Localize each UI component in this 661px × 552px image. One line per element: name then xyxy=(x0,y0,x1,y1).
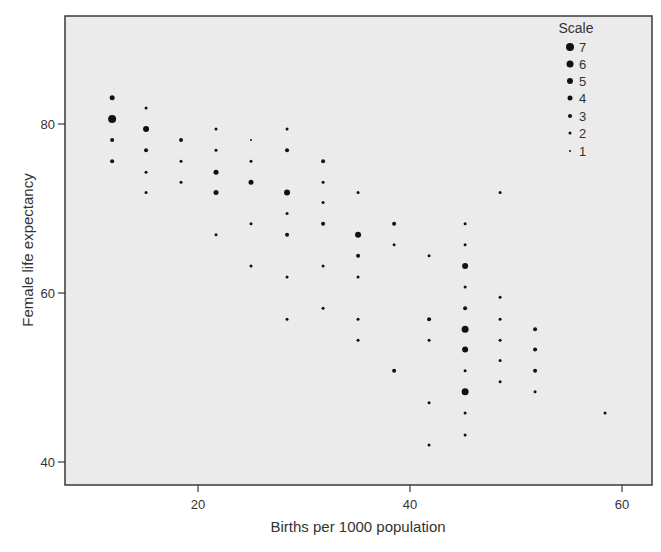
data-point xyxy=(355,232,361,238)
plot-area xyxy=(65,16,652,485)
x-axis: 204060 xyxy=(191,485,629,512)
data-point xyxy=(428,339,431,342)
data-point xyxy=(356,254,360,258)
x-tick-label: 60 xyxy=(615,497,629,512)
data-point xyxy=(428,401,431,404)
legend-label: 2 xyxy=(579,126,586,141)
data-point xyxy=(499,191,502,194)
data-point xyxy=(463,306,467,310)
x-tick-label: 20 xyxy=(191,497,205,512)
data-point xyxy=(464,433,467,436)
data-point xyxy=(427,317,431,321)
data-point xyxy=(321,159,325,163)
legend-marker xyxy=(568,96,573,101)
data-point xyxy=(286,212,289,215)
legend-marker xyxy=(568,114,572,118)
legend-marker xyxy=(566,43,574,51)
data-point xyxy=(250,139,252,141)
data-point xyxy=(357,275,360,278)
legend-marker xyxy=(569,132,572,135)
data-point xyxy=(179,138,183,142)
data-point xyxy=(533,327,537,331)
data-point xyxy=(108,115,116,123)
data-point xyxy=(285,233,289,237)
legend-label: 1 xyxy=(579,144,586,159)
legend-title: Scale xyxy=(558,20,593,36)
data-point xyxy=(464,286,467,289)
data-point xyxy=(322,307,325,310)
data-point xyxy=(499,339,502,342)
data-point xyxy=(464,369,467,372)
data-point xyxy=(110,138,114,142)
data-point xyxy=(322,201,325,204)
data-point xyxy=(214,170,219,175)
y-axis: 406080 xyxy=(41,117,65,470)
legend-marker xyxy=(569,150,571,152)
data-point xyxy=(464,411,467,414)
data-point xyxy=(143,126,149,132)
legend-label: 4 xyxy=(579,91,586,106)
data-point xyxy=(357,318,360,321)
data-point xyxy=(249,180,254,185)
x-tick-label: 40 xyxy=(403,497,417,512)
data-point xyxy=(215,149,218,152)
data-point xyxy=(392,369,396,373)
y-axis-label: Female life expectancy xyxy=(19,173,36,327)
data-point xyxy=(464,243,467,246)
legend-label: 6 xyxy=(579,57,586,72)
data-point xyxy=(462,263,468,269)
data-point xyxy=(250,264,253,267)
data-point xyxy=(393,243,396,246)
data-point xyxy=(322,181,325,184)
data-point xyxy=(145,106,148,109)
data-point xyxy=(428,254,431,257)
data-point xyxy=(145,191,148,194)
data-point xyxy=(462,347,468,353)
data-point xyxy=(533,369,537,373)
data-point xyxy=(499,359,502,362)
data-point xyxy=(499,380,502,383)
scatter-chart: 204060 406080 Scale7654321 Births per 10… xyxy=(0,0,661,552)
data-point xyxy=(144,148,148,152)
data-point xyxy=(250,222,253,225)
data-point xyxy=(499,296,502,299)
data-point xyxy=(145,171,148,174)
data-point xyxy=(215,233,218,236)
data-point xyxy=(428,444,431,447)
data-point xyxy=(286,275,289,278)
data-point xyxy=(357,191,360,194)
data-point xyxy=(534,390,537,393)
data-point xyxy=(464,222,467,225)
data-point xyxy=(462,388,469,395)
legend-label: 3 xyxy=(579,109,586,124)
data-point xyxy=(392,222,396,226)
data-point xyxy=(322,264,325,267)
data-point xyxy=(286,318,289,321)
y-tick-label: 40 xyxy=(41,455,55,470)
legend-marker xyxy=(567,61,574,68)
data-point xyxy=(462,326,469,333)
y-tick-label: 60 xyxy=(41,286,55,301)
data-point xyxy=(250,160,253,163)
legend-label: 5 xyxy=(579,74,586,89)
data-point xyxy=(180,181,183,184)
x-axis-label: Births per 1000 population xyxy=(270,518,445,535)
data-point xyxy=(499,318,502,321)
data-point xyxy=(110,95,115,100)
data-point xyxy=(180,160,183,163)
legend-marker xyxy=(567,78,573,84)
y-tick-label: 80 xyxy=(41,117,55,132)
legend-label: 7 xyxy=(579,40,586,55)
data-point xyxy=(110,159,114,163)
data-point xyxy=(215,128,218,131)
data-point xyxy=(285,148,289,152)
data-point xyxy=(357,339,360,342)
data-point xyxy=(321,222,325,226)
data-point xyxy=(214,190,219,195)
data-point xyxy=(533,348,537,352)
data-point xyxy=(286,128,289,131)
data-point xyxy=(284,189,290,195)
data-point xyxy=(604,411,607,414)
